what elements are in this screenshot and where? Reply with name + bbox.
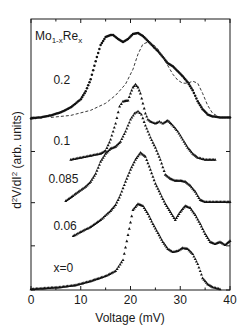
data-point <box>143 120 146 123</box>
data-point <box>197 266 200 269</box>
data-point <box>110 134 113 137</box>
data-point <box>128 121 131 124</box>
data-point <box>191 89 194 92</box>
data-point <box>160 195 163 198</box>
data-point <box>123 183 126 186</box>
data-point <box>125 127 128 130</box>
data-point <box>161 197 164 200</box>
data-point <box>93 64 96 67</box>
data-point <box>150 172 153 175</box>
data-point <box>129 221 132 224</box>
data-point <box>163 169 166 172</box>
data-point <box>143 107 146 110</box>
series-label: 0.1 <box>53 134 70 148</box>
data-point <box>130 166 133 169</box>
data-point <box>120 190 123 193</box>
data-point <box>202 230 205 233</box>
data-point <box>151 222 154 225</box>
data-point <box>144 112 147 115</box>
data-point <box>149 168 152 171</box>
x-tick-label: 0 <box>28 293 35 307</box>
data-point <box>197 220 200 223</box>
data-point <box>141 117 144 120</box>
chart-title: Mo1-xRex <box>35 29 82 45</box>
data-point <box>118 105 121 108</box>
data-point <box>159 236 162 239</box>
data-point <box>148 215 151 218</box>
data-point <box>154 182 157 185</box>
data-point <box>194 95 197 98</box>
data-point <box>154 146 157 149</box>
data-point <box>97 52 100 55</box>
data-point <box>151 175 154 178</box>
data-point <box>145 115 148 118</box>
data-point <box>128 171 131 174</box>
series-x-0 <box>30 202 222 290</box>
series-label: x=0 <box>53 261 73 275</box>
data-point <box>125 177 128 180</box>
data-point <box>98 163 101 166</box>
data-point <box>124 130 127 133</box>
data-point <box>124 180 127 183</box>
data-point <box>114 203 117 206</box>
data-point <box>153 179 156 182</box>
data-point <box>150 138 153 141</box>
data-point <box>122 258 125 261</box>
data-point <box>119 193 122 196</box>
data-point <box>84 90 87 93</box>
data-point <box>154 227 157 230</box>
series-label: 0.085 <box>48 172 78 186</box>
data-point <box>127 124 130 127</box>
data-point <box>122 187 125 190</box>
data-point <box>87 84 90 87</box>
data-point <box>108 141 111 144</box>
data-point <box>196 262 199 265</box>
data-point <box>123 252 126 255</box>
data-point <box>117 198 120 201</box>
data-point <box>155 149 158 152</box>
data-point <box>144 124 147 127</box>
data-point <box>105 146 108 149</box>
data-point <box>115 201 118 204</box>
data-point <box>148 165 151 168</box>
data-point <box>109 138 112 141</box>
data-point <box>127 174 130 177</box>
data-point <box>117 111 120 114</box>
data-point <box>195 260 198 263</box>
data-point <box>199 269 202 272</box>
data-point <box>159 192 162 195</box>
data-point <box>91 73 94 76</box>
series-label: 0.06 <box>53 219 77 233</box>
plot-frame <box>31 19 230 290</box>
x-axis-label: Voltage (mV) <box>95 311 164 325</box>
data-point <box>124 246 127 249</box>
series-label: 0.2 <box>53 73 70 87</box>
series-0-1 <box>69 83 216 161</box>
data-point <box>130 215 133 218</box>
data-point <box>114 122 117 125</box>
x-tick-label: 10 <box>74 293 88 307</box>
data-point <box>86 87 89 90</box>
x-tick-label: 30 <box>174 293 188 307</box>
data-point <box>199 222 202 225</box>
data-point <box>115 116 118 119</box>
data-point <box>155 185 158 188</box>
data-point <box>153 144 156 147</box>
data-point <box>141 102 144 105</box>
data-point <box>156 231 159 234</box>
data-point <box>189 85 192 88</box>
data-point <box>94 60 97 63</box>
data-point <box>95 169 98 172</box>
data-point <box>160 238 163 241</box>
data-point <box>149 217 152 220</box>
data-point <box>229 116 232 119</box>
data-point <box>160 162 163 165</box>
data-point <box>129 168 132 171</box>
y-axis-label: d2V/dI2 (arb. units) <box>10 111 24 209</box>
dashed-curve <box>51 42 220 117</box>
data-point <box>201 227 204 230</box>
data-point <box>120 137 123 140</box>
data-point <box>195 216 198 219</box>
data-point <box>195 97 198 100</box>
data-point <box>161 166 164 169</box>
